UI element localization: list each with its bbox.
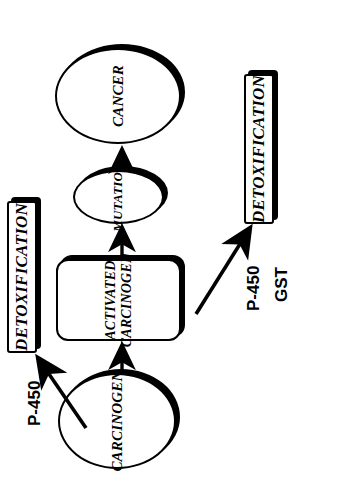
arrow-layer (0, 0, 360, 482)
enzyme-p450-bottom-label: P-450 (244, 266, 264, 311)
arrow-activated-to-detox (196, 228, 250, 314)
enzyme-p450-top-label: P-450 (25, 381, 45, 426)
diagram-canvas: DETOXIFICATION CARCINOGEN ACTIVATED CARC… (0, 0, 360, 482)
arrow-carcinogen-to-detox (38, 358, 86, 428)
enzyme-gst-label: GST (272, 267, 292, 302)
diagram-stage: DETOXIFICATION CARCINOGEN ACTIVATED CARC… (0, 0, 360, 482)
